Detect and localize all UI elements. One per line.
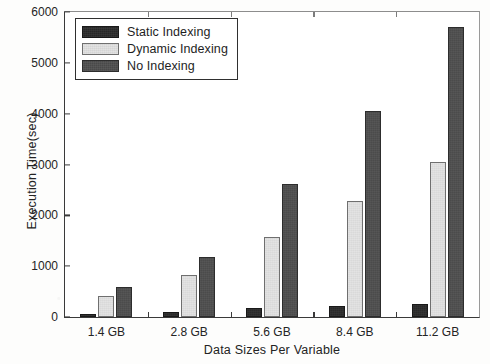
bar bbox=[264, 237, 280, 317]
bar bbox=[181, 275, 197, 317]
y-axis-tick-mark bbox=[65, 316, 70, 317]
legend-item: Dynamic Indexing bbox=[82, 40, 228, 57]
y-axis-tick-mark bbox=[65, 62, 70, 63]
y-axis-tick-label: 0 bbox=[51, 310, 65, 324]
x-axis-tick-label: 2.8 GB bbox=[171, 317, 208, 339]
legend-item-label: No Indexing bbox=[127, 59, 195, 73]
bar bbox=[448, 27, 464, 317]
bar bbox=[246, 308, 262, 317]
y-axis-tick-label: 6000 bbox=[31, 5, 65, 19]
bar bbox=[98, 296, 114, 317]
y-axis-tick-mark bbox=[65, 164, 70, 165]
bar bbox=[329, 306, 345, 317]
bar-chart-figure: Execution Time(sec) 01000200030004000500… bbox=[0, 0, 490, 364]
legend-item: No Indexing bbox=[82, 57, 228, 74]
y-axis-tick-label: 3000 bbox=[31, 158, 65, 172]
y-axis-tick-mark bbox=[65, 11, 70, 12]
x-axis-tick-mark bbox=[148, 312, 149, 317]
x-axis-title: Data Sizes Per Variable bbox=[64, 343, 480, 357]
x-axis-tick-mark bbox=[231, 312, 232, 317]
top-axis-tick-mark bbox=[313, 12, 314, 17]
legend-swatch-icon bbox=[82, 60, 119, 72]
x-axis-tick-label: 1.4 GB bbox=[88, 317, 125, 339]
top-axis-tick-mark bbox=[148, 12, 149, 17]
bar bbox=[199, 257, 215, 317]
y-axis-tick-label: 4000 bbox=[31, 107, 65, 121]
y-axis-tick-mark bbox=[65, 113, 70, 114]
bar bbox=[80, 314, 96, 317]
x-axis-tick-mark bbox=[313, 312, 314, 317]
y-axis-tick-mark bbox=[65, 266, 70, 267]
x-axis-tick-label: 8.4 GB bbox=[336, 317, 373, 339]
legend-swatch-icon bbox=[82, 43, 119, 55]
y-axis-tick-label: 5000 bbox=[31, 56, 65, 70]
y-axis-tick-label: 2000 bbox=[31, 208, 65, 222]
x-axis-tick-label: 5.6 GB bbox=[253, 317, 290, 339]
bar bbox=[365, 111, 381, 317]
legend-item: Static Indexing bbox=[82, 23, 228, 40]
top-axis-tick-mark bbox=[396, 12, 397, 17]
bar bbox=[430, 162, 446, 317]
bar bbox=[347, 201, 363, 317]
legend-item-label: Dynamic Indexing bbox=[127, 42, 228, 56]
chart-legend: Static IndexingDynamic IndexingNo Indexi… bbox=[75, 18, 238, 80]
bar bbox=[163, 312, 179, 317]
x-axis-tick-label: 11.2 GB bbox=[416, 317, 459, 339]
plot-area: 0100020003000400050006000 1.4 GB2.8 GB5.… bbox=[64, 11, 480, 318]
legend-item-label: Static Indexing bbox=[127, 25, 211, 39]
bar bbox=[282, 184, 298, 317]
legend-swatch-icon bbox=[82, 26, 119, 38]
top-axis-tick-mark bbox=[231, 12, 232, 17]
bar bbox=[412, 304, 428, 317]
x-axis-tick-mark bbox=[396, 312, 397, 317]
y-axis-tick-label: 1000 bbox=[31, 259, 65, 273]
bar bbox=[116, 287, 132, 318]
y-axis-tick-mark bbox=[65, 215, 70, 216]
